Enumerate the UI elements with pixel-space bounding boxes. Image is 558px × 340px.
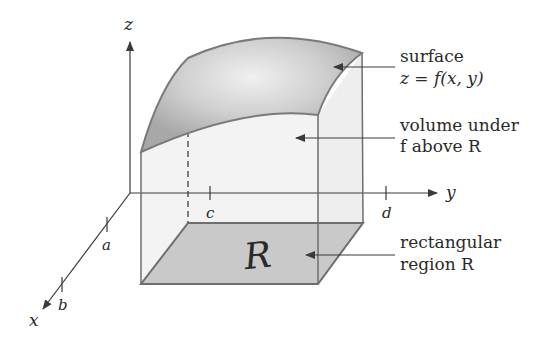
volume-label-line2: f above R xyxy=(400,136,482,156)
tick-label-c: c xyxy=(206,204,215,222)
region-r-glyph: R xyxy=(241,234,273,278)
x-axis xyxy=(43,193,130,309)
volume-label-line1: volume under xyxy=(399,115,520,135)
tick-label-a: a xyxy=(102,236,111,254)
volume-diagram: R z y x c d a b surface z = f(x, y) volu… xyxy=(0,0,558,340)
region-label-line2: region R xyxy=(400,254,475,274)
z-axis-label: z xyxy=(123,14,134,34)
surface-label-line2: z = f(x, y) xyxy=(399,68,484,88)
y-axis-label: y xyxy=(445,182,456,202)
region-label-line1: rectangular xyxy=(400,232,502,252)
tick-label-d: d xyxy=(382,204,392,222)
tick-label-b: b xyxy=(58,296,68,314)
x-axis-label: x xyxy=(29,310,39,330)
surface-label-line1: surface xyxy=(400,46,464,66)
